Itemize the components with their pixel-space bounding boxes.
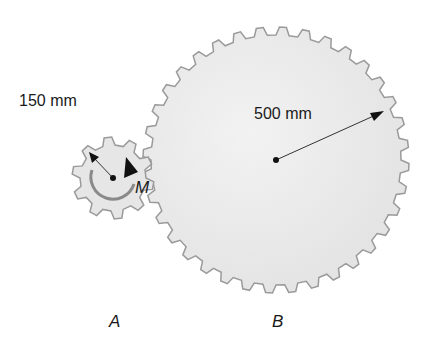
gear-a-radius-label: 150 mm [19,92,77,110]
gear-a-label: A [109,312,120,332]
moment-label: M [135,178,149,198]
gear-b-label: B [272,312,283,332]
gear-b-radius-label: 500 mm [254,105,312,123]
gear-diagram [0,0,435,358]
